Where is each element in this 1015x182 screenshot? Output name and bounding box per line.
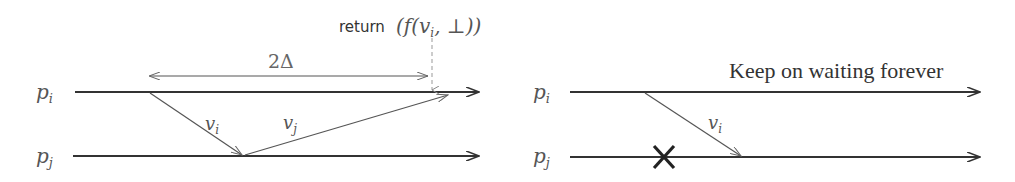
process-label-pi: pi (36, 80, 53, 106)
message-vj-label: vj (283, 112, 297, 136)
message-vj-arrow (245, 95, 448, 155)
message-vi-label: vi (205, 113, 219, 137)
return-expression: (f(vi, ⊥)) (396, 14, 481, 40)
message-vi-label-right: vi (708, 112, 722, 136)
return-keyword: return (339, 18, 385, 36)
left-diagram: pi pj 2Δ return (f(vi, ⊥)) vi vj (36, 14, 481, 170)
process-label-pi-right: pi (533, 80, 550, 106)
right-diagram: pi pj Keep on waiting forever vi (533, 58, 980, 170)
process-label-pj-right: pj (533, 144, 550, 170)
message-vi-arrow (150, 93, 242, 155)
interval-label: 2Δ (268, 50, 294, 72)
caption-keep-waiting: Keep on waiting forever (729, 58, 944, 83)
message-vi-arrow-right (645, 93, 741, 156)
diagram-canvas: pi pj 2Δ return (f(vi, ⊥)) vi vj pi pj K… (0, 0, 1015, 182)
process-label-pj: pj (36, 144, 53, 170)
